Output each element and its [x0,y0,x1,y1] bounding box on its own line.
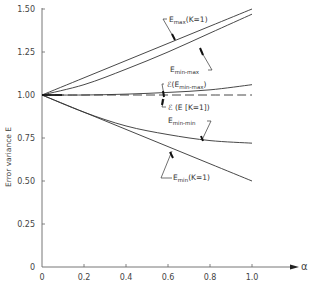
x-tick-label: 0.2 [78,273,91,282]
curve-emin-max [42,14,252,95]
curve--emin-max- [42,85,252,95]
svg-text:Emin-min: Emin-min [168,116,196,126]
annotation-expected-e-k1: ℰ (E [K=1]) [162,99,210,112]
x-tick-label: 0 [39,273,44,282]
x-axis-label: α [301,261,308,272]
annotation-emin: Emin(K=1) [161,151,210,183]
y-ticks: 00.250.500.751.001.251.50 [17,5,45,272]
x-tick-label: 0.4 [120,273,133,282]
x-tick-label: 1.0 [246,273,259,282]
svg-text:ℰ (E [K=1]): ℰ (E [K=1]) [168,103,210,112]
y-tick-label: 1.50 [17,5,35,14]
x-tick-label: 0.6 [162,273,175,282]
error-variance-chart: 00.250.500.751.001.251.50 00.20.40.60.81… [0,0,310,284]
y-tick-label: 0 [30,263,35,272]
svg-text:Emax(K=1): Emax(K=1) [169,15,208,25]
x-tick-label: 0.8 [204,273,217,282]
y-tick-label: 1.25 [17,48,35,57]
y-tick-label: 0.75 [17,134,35,143]
svg-text:ℰ(Emin-max): ℰ(Emin-max) [167,80,207,90]
annotation-expected-emin-max: ℰ(Emin-max) [162,80,207,97]
curve-emin-min [42,95,252,143]
y-tick-label: 0.50 [17,177,35,186]
y-tick-label: 1.00 [17,91,35,100]
axes [42,8,299,270]
curve-emax-k-1- [42,9,252,95]
svg-text:Emin-max: Emin-max [170,65,200,75]
annotation-emin-max: Emin-max [170,48,212,75]
curves [42,9,252,181]
svg-text:Emin(K=1): Emin(K=1) [173,173,210,183]
y-axis-label: Error variance E [4,127,13,187]
curve-emin-k-1- [42,95,252,181]
annotation-emin-min: Emin-min [168,116,211,141]
x-axis-arrow-icon [290,265,299,270]
y-tick-label: 0.25 [17,220,35,229]
